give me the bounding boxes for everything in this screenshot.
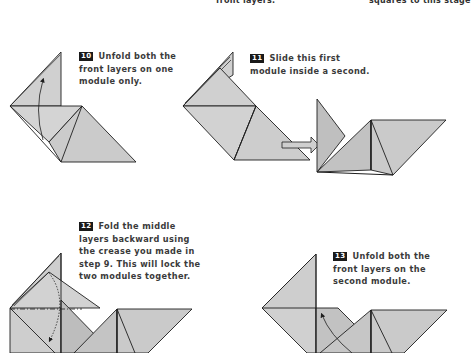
step-13-diagram (262, 254, 447, 353)
step-11-diagram-right (317, 99, 446, 175)
step-12-diagram (10, 253, 192, 353)
step-10-diagram (10, 52, 136, 162)
